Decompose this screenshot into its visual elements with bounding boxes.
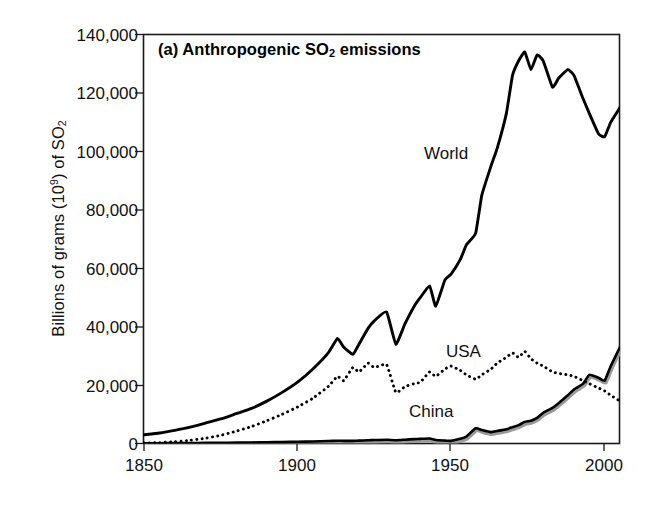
panel-title-suffix: emissions	[335, 40, 421, 58]
series-label-world: World	[424, 144, 468, 164]
series-label-usa: USA	[446, 342, 481, 362]
panel-title: (a) Anthropogenic SO2 emissions	[158, 40, 421, 59]
figure-anthropogenic-so2-emissions: Billions of grams (109) of SO2 140,000 1…	[0, 0, 656, 523]
y-axis-ticks	[135, 35, 143, 444]
plot-frame	[144, 35, 620, 444]
plot-area	[0, 0, 656, 523]
x-axis-ticks	[144, 444, 604, 452]
panel-title-prefix: (a) Anthropogenic SO	[158, 40, 329, 58]
series-label-china: China	[409, 402, 453, 422]
